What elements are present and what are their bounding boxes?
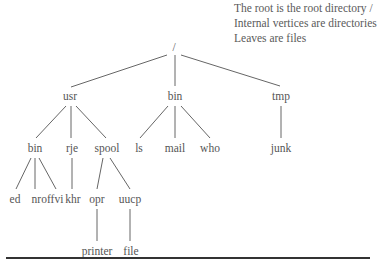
tree-edge [39, 158, 56, 189]
tree-node-root: / [172, 41, 175, 53]
tree-node-uucp: uucp [119, 193, 141, 205]
bottom-divider [6, 257, 370, 259]
tree-node-opr: opr [89, 193, 104, 205]
tree-edge [36, 106, 66, 138]
tree-edge [97, 158, 103, 189]
tree-node-who: who [200, 142, 220, 154]
tree-node-spool: spool [95, 142, 120, 154]
tree-node-khr: khr [65, 193, 80, 205]
tree-node-mail: mail [165, 142, 185, 154]
tree-edge [110, 158, 130, 189]
tree-node-file: file [123, 245, 138, 257]
tree-node-ed: ed [10, 193, 21, 205]
tree-edge [76, 106, 106, 138]
tree-node-junk: junk [271, 142, 291, 154]
tree-node-printer: printer [82, 245, 113, 257]
tree-edge [181, 106, 210, 138]
tree-node-nroff: nroff [32, 193, 55, 205]
tree-node-bin1: bin [168, 90, 183, 102]
tree-edge [140, 106, 168, 138]
tree-node-bin2: bin [28, 142, 43, 154]
tree-edge [181, 55, 280, 86]
tree-node-rje: rje [66, 142, 78, 154]
tree-node-vi: vi [55, 193, 64, 205]
tree-edge [71, 55, 167, 87]
tree-node-tmp: tmp [272, 90, 290, 102]
tree-node-ls: ls [135, 142, 143, 154]
tree-edge [16, 158, 31, 189]
tree-node-usr: usr [63, 90, 77, 102]
